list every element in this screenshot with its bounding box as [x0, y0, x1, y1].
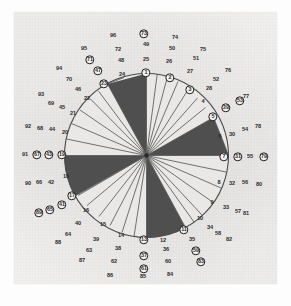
- label-46: 46: [75, 87, 81, 93]
- label-62: 62: [111, 259, 117, 265]
- label-85: 85: [140, 274, 146, 280]
- label-40: 40: [75, 221, 81, 227]
- label-18: 18: [63, 174, 69, 180]
- label-75: 75: [200, 47, 206, 53]
- label-32: 32: [229, 181, 235, 187]
- label-44: 44: [49, 127, 55, 133]
- label-21: 21: [70, 111, 76, 117]
- label-12: 12: [160, 238, 166, 244]
- label-96: 96: [110, 33, 116, 39]
- label-9: 9: [210, 200, 213, 206]
- label-36: 36: [163, 247, 169, 253]
- label-24: 24: [119, 72, 125, 78]
- label-14: 14: [118, 233, 124, 239]
- label-57: 57: [235, 209, 241, 215]
- label-38: 38: [115, 246, 121, 252]
- center-point: [144, 153, 148, 157]
- label-33: 33: [223, 205, 229, 211]
- label-93: 93: [38, 92, 44, 98]
- label-72: 72: [115, 47, 121, 53]
- label-34: 34: [207, 225, 213, 231]
- label-49: 49: [143, 42, 149, 48]
- label-63: 63: [86, 248, 92, 254]
- label-92: 92: [25, 124, 31, 130]
- label-66: 66: [36, 180, 42, 186]
- label-20: 20: [62, 130, 68, 136]
- label-27: 27: [187, 69, 193, 75]
- label-48: 48: [118, 58, 124, 64]
- label-28: 28: [206, 86, 212, 92]
- label-50: 50: [169, 46, 175, 52]
- label-69: 69: [48, 101, 54, 107]
- label-45: 45: [59, 105, 65, 111]
- label-6: 6: [218, 134, 221, 140]
- label-39: 39: [93, 237, 99, 243]
- label-84: 84: [167, 272, 173, 278]
- label-51: 51: [193, 56, 199, 62]
- label-58: 58: [215, 231, 221, 237]
- label-94: 94: [56, 66, 62, 72]
- label-70: 70: [66, 77, 72, 83]
- label-86: 86: [107, 273, 113, 279]
- label-16: 16: [83, 208, 89, 214]
- label-87: 87: [79, 258, 85, 264]
- label-25: 25: [143, 57, 149, 63]
- label-74: 74: [172, 35, 178, 41]
- label-15: 15: [100, 222, 106, 228]
- label-55: 55: [247, 154, 253, 160]
- label-35: 35: [189, 237, 195, 243]
- label-8: 8: [217, 180, 220, 186]
- label-91: 91: [22, 152, 28, 158]
- label-80: 80: [256, 182, 262, 188]
- label-10: 10: [197, 216, 203, 222]
- label-64: 64: [65, 232, 71, 238]
- label-95: 95: [81, 46, 87, 52]
- label-90: 90: [25, 181, 31, 187]
- label-52: 52: [213, 77, 219, 83]
- label-81: 81: [243, 211, 249, 217]
- label-26: 26: [166, 59, 172, 65]
- label-82: 82: [226, 237, 232, 243]
- figure-page: 1234567891011121314151617181920212223242…: [0, 0, 291, 306]
- label-88: 88: [55, 240, 61, 246]
- label-76: 76: [225, 68, 231, 74]
- label-78: 78: [255, 124, 261, 130]
- label-77: 77: [243, 94, 249, 100]
- label-30: 30: [229, 132, 235, 138]
- label-56: 56: [242, 180, 248, 186]
- label-42: 42: [48, 180, 54, 186]
- label-22: 22: [84, 96, 90, 102]
- label-54: 54: [242, 127, 248, 133]
- label-68: 68: [37, 126, 43, 132]
- label-60: 60: [165, 259, 171, 265]
- label-4: 4: [201, 99, 204, 105]
